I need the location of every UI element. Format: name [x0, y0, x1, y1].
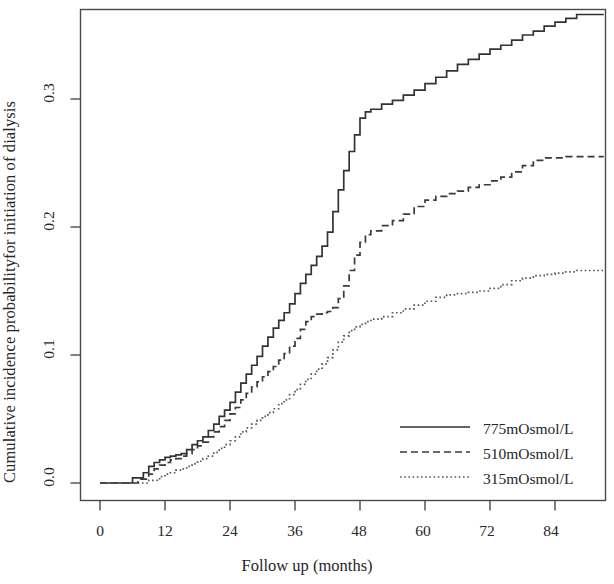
series-layer — [100, 15, 604, 483]
series-line-315mosmoll — [100, 271, 604, 483]
series-line-775mosmoll — [100, 15, 604, 483]
legend-keys — [400, 427, 470, 477]
series-line-510mosmoll — [100, 157, 604, 483]
plot-frame — [81, 10, 606, 501]
axis-ticks — [71, 99, 556, 511]
plot-canvas — [0, 0, 614, 584]
cumulative-incidence-figure: Cumulative incidence probabilityfor init… — [0, 0, 614, 584]
